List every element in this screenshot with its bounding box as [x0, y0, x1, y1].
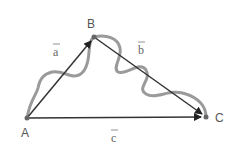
vector-label-b-group: b — [138, 42, 145, 57]
point-label-a: A — [21, 126, 29, 140]
vector-triangle-diagram: B A C a b c — [0, 0, 240, 161]
point-label-c: C — [215, 111, 224, 125]
vector-c-arrow — [27, 117, 201, 118]
point-a-dot — [25, 116, 30, 121]
point-c-dot — [204, 115, 209, 120]
vector-label-c: c — [111, 131, 116, 145]
vector-label-a-group: a — [53, 44, 60, 59]
vector-b-arrow — [94, 37, 202, 114]
vector-a-arrow — [27, 41, 91, 118]
vector-label-a: a — [53, 45, 59, 59]
vector-label-b: b — [138, 43, 144, 57]
vector-label-c-group: c — [111, 130, 118, 145]
point-label-b: B — [87, 17, 95, 31]
point-b-dot — [92, 35, 97, 40]
